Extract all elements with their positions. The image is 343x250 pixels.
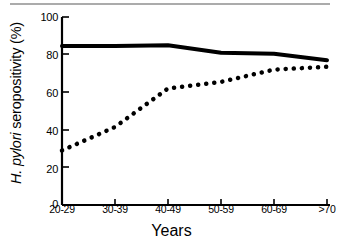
series-dotted-line (62, 67, 327, 151)
x-axis-title: Years (0, 222, 343, 240)
x-tick-40-49: 40-49 (145, 203, 191, 215)
x-tick-60-69: 60-69 (251, 203, 297, 215)
series-solid-line (62, 45, 327, 60)
x-tick-20-29: 20-29 (39, 203, 85, 215)
x-tick-gt70: >70 (304, 203, 343, 215)
chart-figure: H. pylori seropositivity (%) 100 80 60 4… (0, 0, 343, 250)
x-tick-30-39: 30-39 (92, 203, 138, 215)
x-tick-50-59: 50-59 (198, 203, 244, 215)
